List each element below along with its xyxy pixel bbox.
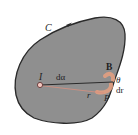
loop-diagram: C I dα B θ dr P r [0,0,138,135]
label-d-alpha: dα [56,72,66,82]
point-i [37,82,42,87]
label-c: C [45,22,52,33]
label-b: B [106,62,113,72]
label-p: P [103,93,110,103]
label-r: r [87,90,91,100]
label-dr: dr [116,85,124,95]
label-theta: θ [116,75,121,85]
